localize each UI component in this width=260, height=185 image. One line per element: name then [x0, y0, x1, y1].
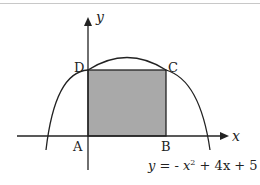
parabola-diagram: y x D C A B y = - x2 + 4x + 5 — [0, 0, 260, 185]
equation-rhs: + 4x + 5 — [195, 158, 257, 173]
point-d-label: D — [74, 60, 84, 75]
x-axis-label: x — [232, 128, 240, 144]
shaded-rectangle-abcd — [88, 70, 166, 136]
point-c-label: C — [168, 60, 178, 75]
y-axis-arrow-icon — [84, 17, 92, 26]
y-axis-label: y — [95, 9, 105, 25]
point-a-label: A — [72, 139, 83, 154]
equation-lhs: y = - x — [147, 158, 191, 173]
x-axis-arrow-icon — [220, 132, 229, 140]
point-b-label: B — [161, 139, 171, 154]
parabola-equation: y = - x2 + 4x + 5 — [147, 158, 258, 173]
